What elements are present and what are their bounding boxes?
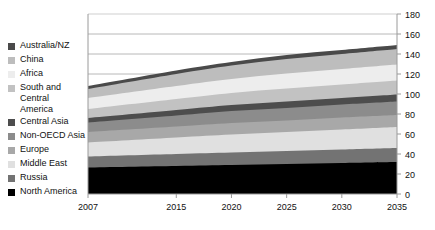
y-axis-tick-label: 20 bbox=[405, 170, 415, 180]
y-axis-tick-labels: 020406080100120140160180 bbox=[397, 10, 420, 200]
y-axis-tick-label: 160 bbox=[405, 30, 420, 40]
y-axis-tick-label: 180 bbox=[405, 10, 420, 20]
y-axis-tick-label: 80 bbox=[405, 110, 415, 120]
x-axis-tick-labels: 200720152020202520302035 bbox=[78, 194, 407, 212]
y-axis-tick-label: 40 bbox=[405, 150, 415, 160]
x-axis-tick-label: 2020 bbox=[221, 202, 241, 212]
y-axis-tick-label: 120 bbox=[405, 70, 420, 80]
x-axis-tick-label: 2025 bbox=[277, 202, 297, 212]
series-area bbox=[88, 162, 397, 194]
y-axis-tick-label: 100 bbox=[405, 90, 420, 100]
stacked-area-chart: Australia/NZChinaAfricaSouth and Central… bbox=[0, 0, 435, 230]
y-axis-tick-label: 60 bbox=[405, 130, 415, 140]
chart-plot-area: 020406080100120140160180 200720152020202… bbox=[0, 0, 435, 230]
y-axis-tick-label: 140 bbox=[405, 50, 420, 60]
x-axis-tick-label: 2015 bbox=[166, 202, 186, 212]
x-axis-tick-label: 2007 bbox=[78, 202, 98, 212]
x-axis-tick-label: 2030 bbox=[332, 202, 352, 212]
x-axis-tick-label: 2035 bbox=[387, 202, 407, 212]
series-areas bbox=[88, 45, 397, 194]
y-axis-tick-label: 0 bbox=[405, 190, 410, 200]
